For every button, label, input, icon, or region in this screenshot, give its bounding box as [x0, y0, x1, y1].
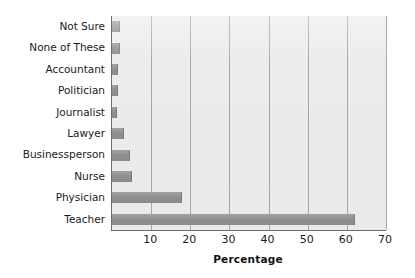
bar	[112, 85, 118, 96]
y-axis-label: None of These	[0, 37, 105, 58]
y-axis-label: Nurse	[0, 166, 105, 187]
gridline-70	[386, 16, 387, 230]
bar	[112, 192, 182, 203]
y-axis-label: Teacher	[0, 209, 105, 230]
bar-row	[112, 123, 386, 144]
bar-row	[112, 187, 386, 208]
y-axis-label: Journalist	[0, 102, 105, 123]
x-axis-tick-labels: 10203040506070	[111, 233, 385, 249]
x-axis-tick-label: 10	[143, 233, 157, 246]
y-axis-label: Not Sure	[0, 16, 105, 37]
bar-row	[112, 37, 386, 58]
bar-row	[112, 80, 386, 101]
bar	[112, 214, 355, 225]
x-axis-tick-label: 20	[182, 233, 196, 246]
y-axis-label: Businessperson	[0, 144, 105, 165]
bar-row	[112, 102, 386, 123]
plot-area	[111, 16, 386, 231]
bar	[112, 21, 120, 32]
x-axis-tick-label: 50	[300, 233, 314, 246]
y-axis-label: Politician	[0, 80, 105, 101]
y-axis-labels: Not SureNone of TheseAccountantPoliticia…	[0, 16, 105, 230]
x-axis-tick-label: 60	[339, 233, 353, 246]
y-axis-label: Lawyer	[0, 123, 105, 144]
bar	[112, 150, 130, 161]
bar	[112, 107, 117, 118]
bar	[112, 128, 124, 139]
bar-row	[112, 16, 386, 37]
x-axis-tick-label: 40	[261, 233, 275, 246]
bar-row	[112, 144, 386, 165]
bar	[112, 64, 118, 75]
bar-row	[112, 166, 386, 187]
bar-chart: Not SureNone of TheseAccountantPoliticia…	[0, 0, 415, 278]
bar	[112, 43, 120, 54]
bar	[112, 171, 132, 182]
x-axis-title: Percentage	[111, 253, 385, 265]
x-axis-tick-label: 30	[221, 233, 235, 246]
y-axis-label: Physician	[0, 187, 105, 208]
bar-row	[112, 59, 386, 80]
bar-row	[112, 209, 386, 230]
x-axis-tick-label: 70	[378, 233, 392, 246]
y-axis-label: Accountant	[0, 59, 105, 80]
